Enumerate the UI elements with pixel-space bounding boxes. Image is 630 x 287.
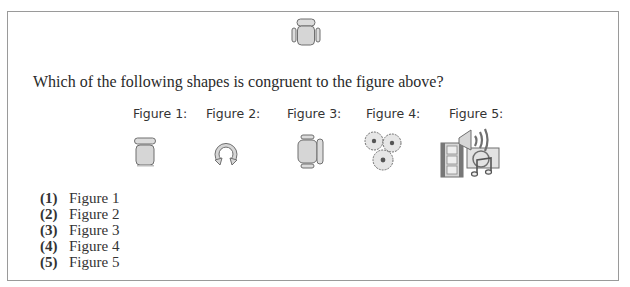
option-4-text[interactable]: Figure 4 xyxy=(69,238,119,255)
figure-4-label: Figure 4: xyxy=(366,106,420,121)
option-2-number[interactable]: (2) xyxy=(40,206,58,223)
figure-2-label: Figure 2: xyxy=(206,106,260,121)
figure-3-label: Figure 3: xyxy=(287,106,341,121)
option-1-number[interactable]: (1) xyxy=(40,190,58,207)
option-1-text[interactable]: Figure 1 xyxy=(69,190,119,207)
question-text: Which of the following shapes is congrue… xyxy=(33,73,444,91)
option-5-number[interactable]: (5) xyxy=(40,254,58,271)
option-2-text[interactable]: Figure 2 xyxy=(69,206,119,223)
option-5-text[interactable]: Figure 5 xyxy=(69,254,119,271)
gears-icon xyxy=(362,128,404,176)
option-3-number[interactable]: (3) xyxy=(40,222,58,239)
multimedia-film-speaker-music-icon xyxy=(437,126,509,180)
office-chair-rotated-icon xyxy=(296,133,326,171)
chair-top-view-no-armrests-icon xyxy=(133,136,157,168)
option-3-text[interactable]: Figure 3 xyxy=(69,222,119,239)
figure-5-label: Figure 5: xyxy=(449,106,503,121)
office-chair-top-view-icon xyxy=(291,17,321,51)
figure-1-label: Figure 1: xyxy=(133,106,187,121)
circular-arrow-ring-icon xyxy=(211,139,241,167)
option-4-number[interactable]: (4) xyxy=(40,238,58,255)
